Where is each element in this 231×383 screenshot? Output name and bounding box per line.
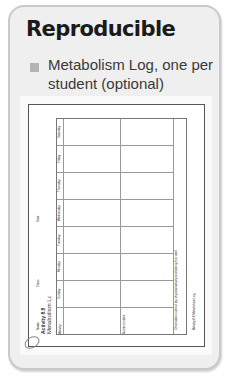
row-divider (57, 280, 173, 281)
day-label-saturday: Saturday (57, 122, 63, 142)
doc-subtitle: Metabolism Log (46, 296, 52, 334)
day-label-friday: Friday (57, 149, 63, 169)
bullet-square-icon (30, 63, 39, 72)
row-divider (57, 172, 173, 173)
name-field: Name (36, 318, 40, 330)
row-divider (57, 226, 173, 227)
card-heading: Reproducible (26, 17, 175, 41)
row-divider (57, 145, 173, 146)
row-divider (57, 253, 173, 254)
day-label-sunday: Sunday (57, 284, 63, 304)
day-label-wednesday: Wednesday (57, 203, 63, 223)
row-label-activity: Activity (58, 310, 62, 334)
day-label-thursday: Thursday (57, 176, 63, 196)
class-field: Class (36, 275, 40, 287)
date-field: Date (36, 210, 40, 222)
row-label-nutrient: Nutrient intake (122, 310, 126, 334)
day-label-tuesday: Tuesday (57, 230, 63, 250)
day-label-monday: Monday (57, 257, 63, 277)
row-divider (57, 307, 173, 308)
doc-footer: Activity 8.8 Metabolism Log (192, 290, 196, 330)
materials-item: Metabolism Log, one per student (optiona… (48, 55, 218, 93)
log-table (56, 118, 187, 335)
observations-prompt: Observations about my physical activity … (174, 250, 178, 330)
row-divider (57, 199, 173, 200)
